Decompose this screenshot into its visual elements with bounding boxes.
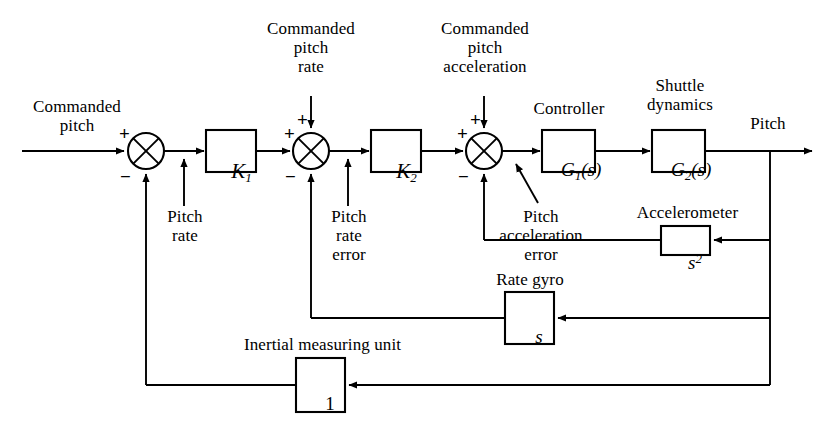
- g2-base: G: [671, 159, 685, 180]
- gyro-base: s: [535, 326, 542, 347]
- block-label-imu: 1: [296, 375, 345, 432]
- g1-suffix: (s): [581, 159, 601, 180]
- block-label-accelerometer: s2: [661, 233, 710, 291]
- sum3-plus-top-sign: +: [470, 110, 481, 129]
- sum1-plus-sign: +: [119, 124, 130, 143]
- block-label-k1: K1: [206, 140, 256, 205]
- caption-accelerometer: Accelerometer: [625, 203, 750, 222]
- sum3-plus-left-sign: +: [457, 124, 468, 143]
- caption-rate-gyro: Rate gyro: [480, 270, 580, 289]
- k1-subscript: 1: [245, 170, 252, 185]
- sum1-minus-sign: −: [120, 167, 131, 186]
- g1-base: G: [561, 159, 575, 180]
- k2-base: K: [396, 159, 410, 183]
- label-pitch-rate-error: Pitch rate error: [309, 207, 389, 264]
- sum3-minus-sign: −: [458, 167, 469, 186]
- block-label-g1: G1(s): [542, 141, 595, 201]
- caption-shuttle-dynamics: Shuttle dynamics: [630, 76, 730, 114]
- label-pitch-rate: Pitch rate: [145, 207, 225, 245]
- label-commanded-pitch-rate: Commanded pitch rate: [241, 19, 381, 76]
- block-label-k2: K2: [371, 140, 421, 205]
- label-pitch-output: Pitch: [733, 114, 803, 133]
- k1-base: K: [231, 159, 245, 183]
- block-label-g2: G2(s): [652, 141, 705, 201]
- block-label-rate-gyro: s: [505, 308, 554, 365]
- sum2-plus-left-sign: +: [284, 124, 295, 143]
- imu-base: 1: [325, 393, 335, 414]
- leader-pitch-acceleration-error: [516, 164, 538, 203]
- label-pitch-acceleration-error: Pitch acceleration error: [478, 207, 604, 264]
- caption-inertial-measuring-unit: Inertial measuring unit: [200, 335, 445, 354]
- sum2-plus-top-sign: +: [297, 110, 308, 129]
- block-diagram-figure: Commanded pitch Commanded pitch rate Com…: [0, 0, 827, 432]
- accel-superscript: 2: [695, 251, 702, 266]
- k2-subscript: 2: [410, 170, 417, 185]
- caption-controller: Controller: [515, 99, 623, 118]
- g2-suffix: (s): [691, 159, 711, 180]
- label-commanded-pitch-acceleration: Commanded pitch acceleration: [412, 19, 558, 76]
- sum2-minus-sign: −: [285, 167, 296, 186]
